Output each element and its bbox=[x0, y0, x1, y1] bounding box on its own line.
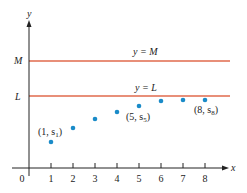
x-tick-label: 1 bbox=[49, 173, 54, 184]
y-axis-label: y bbox=[26, 8, 32, 19]
y-label-L: L bbox=[14, 91, 21, 102]
x-tick-labels: 0 1 2 3 4 5 6 7 8 bbox=[20, 173, 208, 184]
annotation-point-8: (8, s8) bbox=[194, 104, 218, 117]
annotation-point-1: (1, s1) bbox=[38, 126, 62, 139]
line-M-label: y = M bbox=[132, 46, 158, 57]
x-tick-label: 4 bbox=[115, 173, 120, 184]
data-point bbox=[71, 126, 76, 131]
x-tick-label: 6 bbox=[159, 173, 164, 184]
line-L-label: y = L bbox=[134, 82, 157, 93]
data-point bbox=[115, 110, 120, 115]
origin-label: 0 bbox=[20, 173, 25, 184]
x-tick-label: 5 bbox=[137, 173, 142, 184]
y-label-M: M bbox=[13, 55, 23, 66]
x-tick-label: 2 bbox=[71, 173, 76, 184]
x-tick-label: 7 bbox=[181, 173, 186, 184]
x-tick-label: 3 bbox=[93, 173, 98, 184]
annotation-point-5: (5, s5) bbox=[126, 111, 150, 124]
data-point bbox=[93, 117, 98, 122]
y-axis-arrow-icon bbox=[27, 20, 32, 27]
x-axis-arrow-icon bbox=[222, 166, 229, 171]
x-tick-label: 8 bbox=[203, 173, 208, 184]
data-point bbox=[137, 104, 142, 109]
data-point bbox=[159, 99, 164, 104]
x-ticks bbox=[51, 163, 205, 168]
data-point bbox=[203, 98, 208, 103]
chart: y x M L y = M y = L 0 1 2 3 4 5 6 7 8 bbox=[0, 0, 247, 193]
data-point bbox=[181, 98, 186, 103]
x-axis-label: x bbox=[230, 162, 236, 173]
data-point bbox=[49, 140, 54, 145]
